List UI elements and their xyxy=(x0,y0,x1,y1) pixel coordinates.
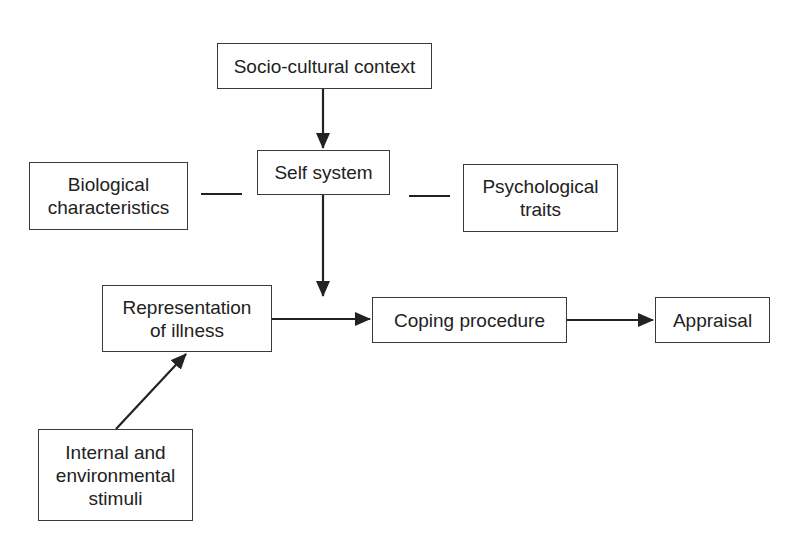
node-label-line-1: Internal and xyxy=(65,441,165,464)
node-label-line-2: characteristics xyxy=(48,196,169,219)
node-biological-characteristics: Biological characteristics xyxy=(29,162,188,230)
node-internal-environmental-stimuli: Internal and environmental stimuli xyxy=(38,429,193,521)
node-label-line-1: Representation xyxy=(123,296,252,319)
node-self-system: Self system xyxy=(257,150,390,195)
node-psychological-traits: Psychological traits xyxy=(463,164,618,232)
node-label-line-2: of illness xyxy=(150,319,224,342)
node-label-line-3: stimuli xyxy=(89,487,143,510)
node-appraisal: Appraisal xyxy=(655,297,770,343)
node-socio-cultural-context: Socio-cultural context xyxy=(217,43,432,89)
node-label-line-2: traits xyxy=(520,198,561,221)
edge-stimuli-to-representation xyxy=(116,354,186,429)
node-label: Socio-cultural context xyxy=(234,55,416,78)
node-label-line-1: Biological xyxy=(68,173,149,196)
diagram-canvas: Socio-cultural context Self system Biolo… xyxy=(0,0,800,547)
node-representation-of-illness: Representation of illness xyxy=(102,285,272,352)
node-label: Coping procedure xyxy=(394,309,545,332)
node-label: Appraisal xyxy=(673,309,752,332)
node-coping-procedure: Coping procedure xyxy=(372,297,567,343)
node-label-line-1: Psychological xyxy=(482,175,598,198)
node-label: Self system xyxy=(274,161,372,184)
node-label-line-2: environmental xyxy=(56,464,175,487)
